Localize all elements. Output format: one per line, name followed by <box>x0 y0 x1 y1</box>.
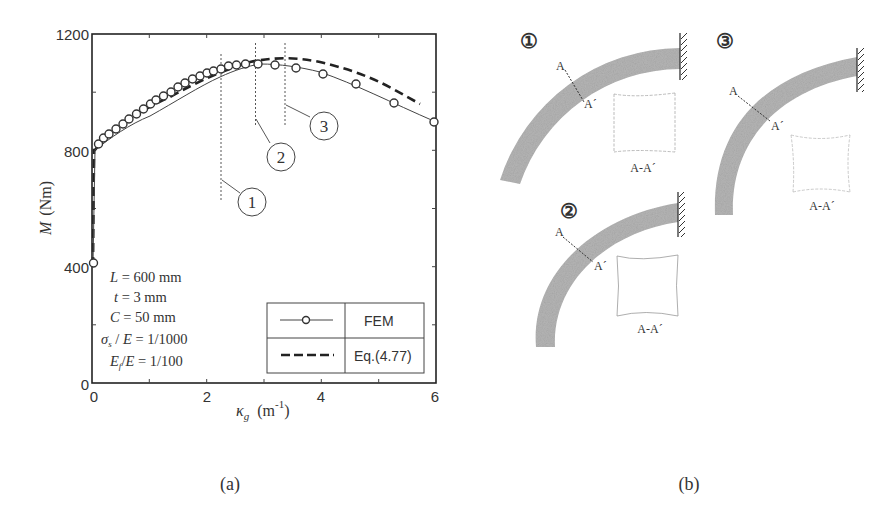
eq-477-curve <box>93 58 420 266</box>
section-start-label: A <box>729 84 738 98</box>
section-label: A-A´ <box>809 199 834 213</box>
legend-fem-label: FEM <box>364 313 394 329</box>
x-axis-label: κg(m-1) <box>236 398 289 422</box>
section-start-label: A <box>555 225 564 239</box>
x-tick-label: 4 <box>317 388 325 405</box>
section-end-label: A´ <box>584 97 597 111</box>
x-tick-label: 0 <box>90 388 98 405</box>
param-c: C = 50 mm <box>110 309 177 325</box>
state-3-diagram: ③ A A´ A-A´ <box>715 30 864 215</box>
cross-section-shape <box>617 255 678 316</box>
state-marker-3-label: 3 <box>320 117 329 136</box>
x-tick-label: 6 <box>431 388 439 405</box>
param-ef-ratio: Ef/E = 1/100 <box>109 353 183 371</box>
svg-text:M(Nm): M(Nm) <box>37 181 55 236</box>
panel-b-diagram: ① A A´ A-A´ ③ <box>500 30 864 495</box>
panel-a-chart: 1200 800 400 0 0 2 4 6 M(Nm) κg(m-1) <box>37 26 439 495</box>
bent-beam <box>715 57 857 215</box>
fixed-support <box>857 48 864 92</box>
cross-section-shape <box>614 93 675 152</box>
section-end-label: A´ <box>594 259 607 273</box>
figure: 1200 800 400 0 0 2 4 6 M(Nm) κg(m-1) <box>0 0 895 522</box>
y-tick-label: 800 <box>64 143 89 160</box>
cross-section-shape <box>791 135 850 192</box>
fem-markers <box>90 60 439 267</box>
section-label: A-A´ <box>637 322 662 336</box>
legend-eq-label: Eq.(4.77) <box>354 348 412 364</box>
state-marker-circles: 1 2 3 <box>238 112 338 216</box>
param-sigma-ratio: σs / E = 1/1000 <box>101 331 188 349</box>
state-1-id: ① <box>520 30 538 52</box>
y-tick-label: 1200 <box>56 26 89 43</box>
fem-curve <box>93 64 436 264</box>
panel-a-caption: (a) <box>220 474 240 495</box>
fixed-support <box>680 33 687 80</box>
state-1-diagram: ① A A´ A-A´ <box>500 30 687 184</box>
section-start-label: A <box>556 59 565 73</box>
x-tick-label: 2 <box>203 388 211 405</box>
legend: FEM Eq.(4.77) <box>267 303 424 373</box>
fixed-support <box>678 192 685 237</box>
y-tick-label: 400 <box>64 259 89 276</box>
y-tick-label: 0 <box>81 376 89 393</box>
param-length: L = 600 mm <box>109 269 182 285</box>
parameters-block: L = 600 mm t = 3 mm C = 50 mm σs / E = 1… <box>101 269 188 371</box>
state-marker-1-label: 1 <box>248 193 257 212</box>
y-axis-label: M(Nm) <box>37 181 55 236</box>
state-3-id: ③ <box>716 30 734 52</box>
section-end-label: A´ <box>771 119 784 133</box>
state-2-diagram: ② A A´ A-A´ <box>536 192 685 347</box>
state-marker-2-label: 2 <box>277 148 286 167</box>
section-label: A-A´ <box>630 161 655 175</box>
param-thickness: t = 3 mm <box>114 289 168 305</box>
state-2-id: ② <box>560 200 578 222</box>
panel-b-caption: (b) <box>679 474 700 495</box>
